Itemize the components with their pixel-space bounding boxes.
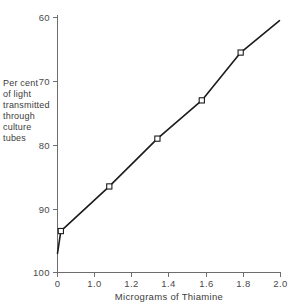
data-point-marker	[199, 98, 204, 103]
x-tick-label-2: 1.2	[124, 278, 138, 289]
data-series	[58, 21, 280, 254]
series-line	[58, 21, 280, 254]
series-markers	[58, 50, 243, 234]
x-tick-marks	[58, 273, 281, 278]
chart-plot-area: 60 70 80 90 100 0 1.0 1.2 1.4 1.6 1.8 2.…	[0, 0, 289, 304]
y-tick-marks	[53, 18, 58, 273]
x-tick-label-4: 1.6	[199, 278, 213, 289]
x-tick-label-0: 0	[55, 278, 61, 289]
y-tick-label-4: 100	[33, 267, 50, 278]
y-axis-title-line-0: Per cent	[3, 78, 38, 88]
x-axis-title: Micrograms of Thiamine	[115, 291, 223, 302]
x-tick-labels: 0 1.0 1.2 1.4 1.6 1.8 2.0	[55, 278, 288, 289]
axis-lines	[58, 15, 282, 273]
y-axis-title-line-3: through	[3, 111, 35, 121]
x-tick-label-3: 1.4	[161, 278, 175, 289]
y-axis-title-line-4: culture	[3, 122, 31, 132]
y-axis-title: Per cent of light transmitted through cu…	[3, 78, 50, 143]
data-point-marker	[238, 50, 243, 55]
x-tick-label-6: 2.0	[273, 278, 287, 289]
data-point-marker	[107, 184, 112, 189]
y-tick-labels: 60 70 80 90 100	[33, 12, 50, 278]
y-axis-title-line-1: of light	[3, 89, 31, 99]
x-tick-label-1: 1.0	[87, 278, 101, 289]
data-point-marker	[155, 136, 160, 141]
y-tick-label-3: 90	[39, 204, 50, 215]
y-axis-title-line-2: transmitted	[3, 100, 50, 110]
x-tick-label-5: 1.8	[236, 278, 250, 289]
data-point-marker	[58, 228, 63, 233]
thiamine-transmittance-chart: 60 70 80 90 100 0 1.0 1.2 1.4 1.6 1.8 2.…	[0, 0, 289, 304]
y-axis-title-line-5: tubes	[3, 133, 26, 143]
y-tick-label-2: 80	[39, 140, 50, 151]
y-tick-label-1: 70	[39, 76, 50, 87]
y-tick-label-0: 60	[39, 12, 50, 23]
